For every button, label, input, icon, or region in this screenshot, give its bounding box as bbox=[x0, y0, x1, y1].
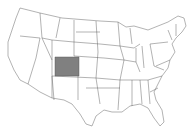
us-map bbox=[0, 0, 196, 136]
us-map-svg bbox=[0, 0, 196, 136]
state-colorado bbox=[55, 57, 79, 76]
